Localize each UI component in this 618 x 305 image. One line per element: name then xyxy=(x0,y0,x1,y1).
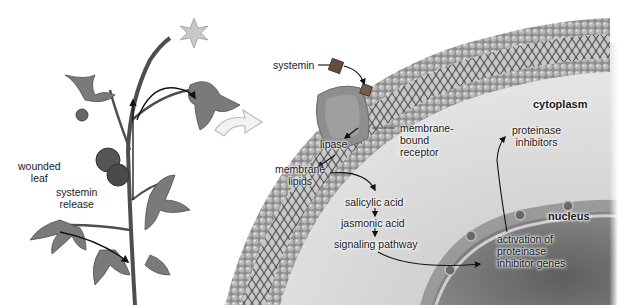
zoom-arrow xyxy=(215,110,262,136)
label-membrane-bound-receptor: membrane- bound receptor xyxy=(400,122,454,158)
label-membrane-lipids: membrane lipids xyxy=(275,163,325,187)
label-systemin-release: systemin release xyxy=(56,186,97,210)
label-signaling-pathway: signaling pathway xyxy=(334,238,417,250)
label-text: leaf xyxy=(18,172,61,184)
label-text: systemin xyxy=(56,186,97,198)
label-salicylic-acid: salicylic acid xyxy=(345,196,403,208)
label-nucleus: nucleus xyxy=(548,210,590,222)
nuclear-pore xyxy=(466,231,476,241)
diagram-canvas: wounded leaf systemin release systemin l… xyxy=(0,0,618,305)
label-jasmonic-acid: jasmonic acid xyxy=(341,217,405,229)
label-activation-of-proteinase-inhibitor-genes: activation of proteinase inhibitor genes xyxy=(497,233,565,269)
label-text: activation of xyxy=(497,233,565,245)
label-proteinase-inhibitors: proteinase inhibitors xyxy=(512,124,561,148)
nuclear-pore xyxy=(515,210,525,220)
label-wounded-leaf: wounded leaf xyxy=(18,160,61,184)
label-text: proteinase xyxy=(512,124,561,136)
nuclear-pore xyxy=(445,265,455,275)
label-text: inhibitor genes xyxy=(497,257,565,269)
label-text: proteinase xyxy=(497,245,565,257)
label-systemin: systemin xyxy=(273,59,314,71)
label-text: membrane xyxy=(275,163,325,175)
label-cytoplasm: cytoplasm xyxy=(533,98,587,110)
label-lipase: lipase xyxy=(320,138,347,150)
label-text: lipids xyxy=(275,175,325,187)
label-text: inhibitors xyxy=(512,136,561,148)
label-text: receptor xyxy=(400,146,454,158)
label-text: bound xyxy=(400,134,454,146)
label-text: membrane- xyxy=(400,122,454,134)
label-text: wounded xyxy=(18,160,61,172)
label-text: release xyxy=(56,198,97,210)
tomato-plant xyxy=(30,18,240,305)
